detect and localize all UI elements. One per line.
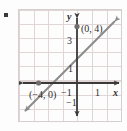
square-bullet-icon [4,13,8,17]
y-axis-label: y [67,12,71,22]
y-intercept-label: (0, 4) [81,24,103,34]
y-tick-label-3: 3 [67,36,72,46]
x-intercept-label: (−4, 0) [29,90,56,100]
graph-screenshot: y x (0, 4) (−4, 0) 3 1 −1 1 −1 [0,0,127,131]
x-tick-label-1: 1 [95,88,100,98]
x-intercept-point [36,80,41,85]
y-tick-label-1: 1 [68,64,73,74]
y-intercept-point [74,24,79,29]
x-axis-label: x [113,88,118,98]
y-tick-label-neg1: −1 [66,98,77,108]
